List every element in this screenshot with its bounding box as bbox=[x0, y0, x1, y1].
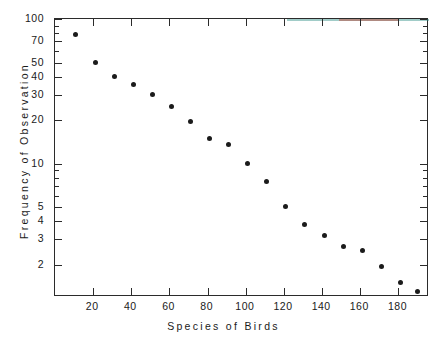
x-tick-top bbox=[322, 19, 323, 26]
x-tick bbox=[246, 288, 247, 295]
y-tick-major bbox=[55, 120, 62, 121]
y-tick-major bbox=[55, 164, 62, 165]
x-tick bbox=[398, 288, 399, 295]
data-point bbox=[112, 74, 117, 79]
x-tick bbox=[131, 288, 132, 295]
chart-figure: Frequency of Observation 234510203040507… bbox=[0, 0, 447, 345]
y-tick-label: 2 bbox=[38, 258, 44, 270]
y-tick-minor-right bbox=[423, 196, 427, 197]
y-tick-major-right bbox=[420, 77, 427, 78]
y-tick-label: 3 bbox=[38, 232, 44, 244]
x-tick bbox=[208, 288, 209, 295]
data-point bbox=[283, 204, 288, 209]
y-tick-major bbox=[55, 77, 62, 78]
y-tick-major-right bbox=[420, 239, 427, 240]
y-tick-label: 30 bbox=[31, 88, 44, 100]
x-tick-top bbox=[131, 19, 132, 26]
y-tick-major-right bbox=[420, 95, 427, 96]
data-point bbox=[360, 248, 365, 253]
x-tick-label: 40 bbox=[124, 300, 137, 312]
x-tick-label: 120 bbox=[273, 300, 292, 312]
y-tick-minor bbox=[55, 33, 59, 34]
y-tick-major bbox=[55, 63, 62, 64]
y-axis-tick-labels: 2345102030405070100 bbox=[0, 18, 48, 296]
x-tick bbox=[360, 288, 361, 295]
x-tick-label: 140 bbox=[312, 300, 331, 312]
y-tick-minor-right bbox=[423, 170, 427, 171]
data-point bbox=[131, 82, 136, 87]
y-tick-label: 10 bbox=[31, 157, 44, 169]
x-tick-top bbox=[246, 19, 247, 26]
y-tick-label: 5 bbox=[38, 200, 44, 212]
x-axis-tick-labels: 20406080100120140160180 bbox=[54, 300, 428, 316]
x-tick-top bbox=[398, 19, 399, 26]
top-border-red-tint bbox=[339, 19, 399, 21]
y-tick-major bbox=[55, 19, 62, 20]
x-tick-label: 180 bbox=[388, 300, 407, 312]
y-tick-minor bbox=[55, 51, 59, 52]
x-tick-top bbox=[93, 19, 94, 26]
data-point bbox=[379, 264, 384, 269]
x-tick-top bbox=[169, 19, 170, 26]
x-tick bbox=[169, 288, 170, 295]
y-tick-minor-right bbox=[423, 186, 427, 187]
y-tick-major-right bbox=[420, 164, 427, 165]
x-tick-top bbox=[208, 19, 209, 26]
data-point bbox=[207, 136, 212, 141]
x-tick-label: 80 bbox=[200, 300, 213, 312]
x-tick bbox=[93, 288, 94, 295]
y-tick-minor bbox=[55, 26, 59, 27]
top-border-teal-tint bbox=[287, 19, 429, 21]
y-tick-label: 4 bbox=[38, 214, 44, 226]
data-point bbox=[322, 233, 327, 238]
y-tick-minor-right bbox=[423, 51, 427, 52]
y-tick-label: 50 bbox=[31, 56, 44, 68]
y-tick-label: 40 bbox=[31, 70, 44, 82]
y-tick-major-right bbox=[420, 41, 427, 42]
y-tick-major bbox=[55, 207, 62, 208]
data-point bbox=[398, 280, 403, 285]
y-tick-minor bbox=[55, 186, 59, 187]
y-tick-major-right bbox=[420, 221, 427, 222]
x-tick bbox=[284, 288, 285, 295]
data-point bbox=[150, 92, 155, 97]
y-tick-major bbox=[55, 265, 62, 266]
y-tick-major-right bbox=[420, 120, 427, 121]
y-tick-minor-right bbox=[423, 26, 427, 27]
x-tick-label: 160 bbox=[350, 300, 369, 312]
x-tick-top bbox=[360, 19, 361, 26]
data-point bbox=[226, 142, 231, 147]
y-tick-major-right bbox=[420, 265, 427, 266]
data-point bbox=[341, 244, 346, 249]
y-tick-label: 20 bbox=[31, 113, 44, 125]
data-point bbox=[93, 60, 98, 65]
x-tick-label: 100 bbox=[235, 300, 254, 312]
x-tick bbox=[322, 288, 323, 295]
y-tick-major-right bbox=[420, 207, 427, 208]
y-tick-major bbox=[55, 41, 62, 42]
data-point bbox=[415, 289, 420, 294]
y-tick-minor-right bbox=[423, 178, 427, 179]
y-tick-minor bbox=[55, 170, 59, 171]
y-tick-minor bbox=[55, 178, 59, 179]
plot-area bbox=[54, 18, 428, 296]
y-tick-minor-right bbox=[423, 33, 427, 34]
y-tick-major bbox=[55, 221, 62, 222]
y-tick-label: 100 bbox=[25, 12, 44, 24]
x-tick-label: 60 bbox=[162, 300, 175, 312]
data-point bbox=[73, 32, 78, 37]
x-tick-top bbox=[284, 19, 285, 26]
y-tick-major bbox=[55, 95, 62, 96]
data-point bbox=[245, 161, 250, 166]
y-tick-major-right bbox=[420, 19, 427, 20]
x-axis-title: Species of Birds bbox=[0, 320, 447, 332]
y-tick-major-right bbox=[420, 63, 427, 64]
x-tick-label: 20 bbox=[86, 300, 99, 312]
y-tick-major bbox=[55, 239, 62, 240]
y-tick-label: 70 bbox=[31, 34, 44, 46]
data-point bbox=[169, 104, 174, 109]
y-tick-minor bbox=[55, 196, 59, 197]
data-point bbox=[188, 119, 193, 124]
data-point bbox=[264, 179, 269, 184]
data-point bbox=[302, 222, 307, 227]
